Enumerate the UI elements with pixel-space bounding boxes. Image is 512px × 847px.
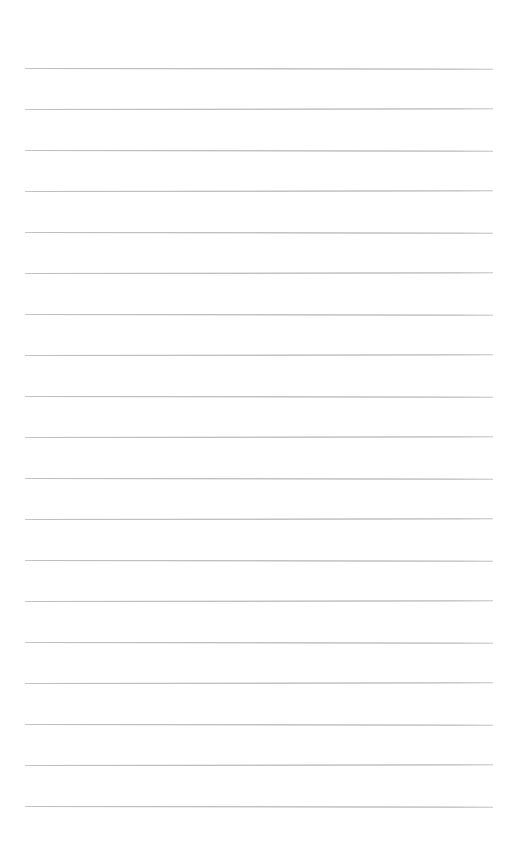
- lined-paper-page: [0, 0, 512, 847]
- page-writing-area[interactable]: [27, 33, 491, 812]
